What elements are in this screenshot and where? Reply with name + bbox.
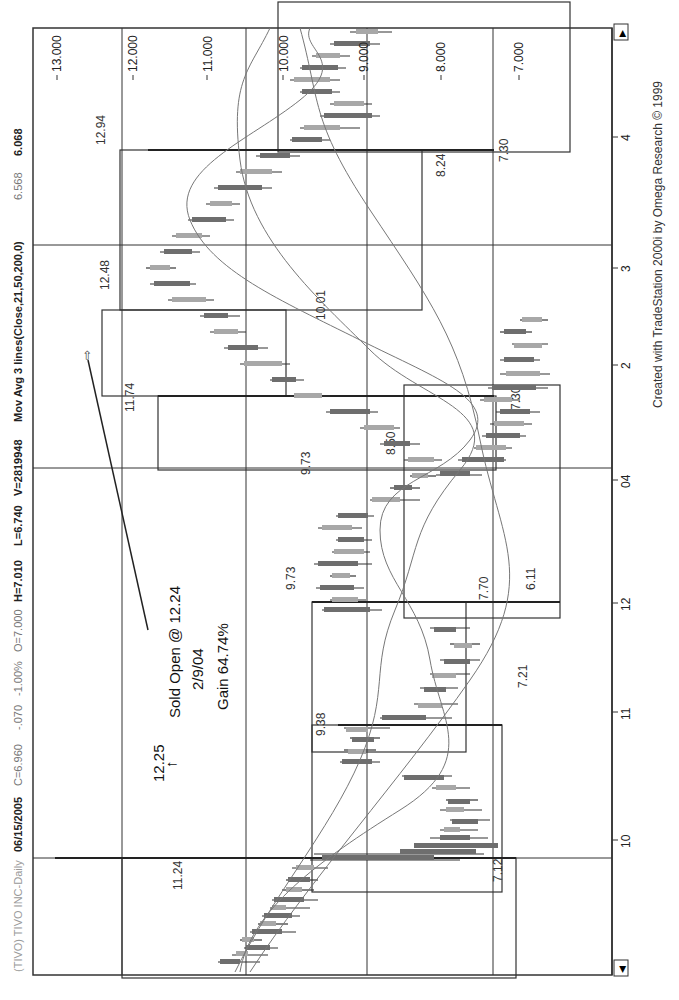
tick-7000: 7.000 <box>512 42 526 72</box>
header-symbol: (TIVO) TIVO INC-Daily <box>12 860 24 972</box>
header-low: L=6.740 <box>12 505 24 546</box>
price-axis-labels: 13.000 12.000 11.000 10.000 9.000 8.000 … <box>50 35 526 72</box>
label-10-01: 10.01 <box>314 290 328 320</box>
header-change-pct: -1.00% <box>12 661 24 696</box>
label-11-74: 11.74 <box>123 383 137 412</box>
header-high: H=7.010 <box>12 560 24 602</box>
header-indicator: Mov Avg 3 lines(Close,21,50,200,0) <box>12 241 24 422</box>
header-close: C=6.960 <box>12 744 24 786</box>
trade-annotation: ↑ 12.25 Sold Open @ 12.24 2/9/04 Gain 64… <box>150 586 231 782</box>
sell-marker-price: 12.25 <box>150 744 167 782</box>
label-12-48: 12.48 <box>98 260 112 290</box>
header-change: -.070 <box>12 705 24 730</box>
tick-8000: 8.000 <box>434 42 448 72</box>
price-bars <box>146 29 550 964</box>
trade-pointer-arrowhead: ⇨ <box>80 350 94 360</box>
chart-native-frame: (TIVO) TIVO INC-Daily 06/15/2005 C=6.960… <box>12 2 665 978</box>
scroll-left-icon: ◀ <box>617 966 627 973</box>
scroll-left-button[interactable]: ◀ <box>614 960 628 976</box>
tick-dec: 12 <box>619 597 633 611</box>
time-gridlines <box>33 245 612 858</box>
sold-date-text: 2/9/04 <box>189 648 206 690</box>
label-9-73-a: 9.73 <box>284 566 298 590</box>
price-axis-ticks <box>57 75 519 80</box>
tick-10000: 10.000 <box>277 35 291 72</box>
tick-11000: 11.000 <box>201 36 215 72</box>
header-date: 06/15/2005 <box>12 797 24 852</box>
time-axis-labels: 10 11 12 04 2 3 4 <box>619 134 633 848</box>
footer-credit: Created with TradeStation 2000i by Omega… <box>651 81 665 408</box>
tick-jan-04: 04 <box>619 474 633 488</box>
scroll-right-icon: ▶ <box>617 30 627 37</box>
tick-13000: 13.000 <box>50 35 64 72</box>
header-indicator-value-2: 6.068 <box>12 128 24 156</box>
gain-text: Gain 64.74% <box>214 623 231 710</box>
tick-9000: 9.000 <box>357 42 371 72</box>
trade-pointer-line <box>88 360 148 630</box>
label-9-38: 9.38 <box>314 712 328 736</box>
label-6-11: 6.11 <box>524 567 538 590</box>
tick-feb: 2 <box>619 362 633 369</box>
tick-oct: 10 <box>619 834 633 848</box>
scroll-right-button[interactable]: ▶ <box>614 24 628 40</box>
label-8-24: 8.24 <box>434 153 448 177</box>
price-chart: (TIVO) TIVO INC-Daily 06/15/2005 C=6.960… <box>0 0 679 1000</box>
chart-header: (TIVO) TIVO INC-Daily 06/15/2005 C=6.960… <box>12 128 24 972</box>
label-11-24: 11.24 <box>171 861 185 890</box>
header-volume: V=2819948 <box>12 439 24 496</box>
tick-apr: 4 <box>619 134 633 141</box>
label-12-94: 12.94 <box>94 115 108 145</box>
label-7-70: 7.70 <box>477 576 491 600</box>
label-7-21: 7.21 <box>516 664 530 688</box>
header-indicator-value-1: 6.568 <box>12 172 24 200</box>
tick-nov: 11 <box>619 707 633 720</box>
time-axis <box>612 28 618 975</box>
label-7-30-b: 7.30 <box>497 138 511 162</box>
tick-mar: 3 <box>619 265 633 272</box>
label-9-73-b: 9.73 <box>299 451 313 475</box>
label-7-12: 7.12 <box>491 858 505 882</box>
header-open: O=7.000 <box>12 609 24 652</box>
chart-stage: (TIVO) TIVO INC-Daily 06/15/2005 C=6.960… <box>0 0 679 1000</box>
sold-open-text: Sold Open @ 12.24 <box>166 586 183 718</box>
range-box-emphasis <box>55 150 560 858</box>
tick-12000: 12.000 <box>126 35 140 72</box>
